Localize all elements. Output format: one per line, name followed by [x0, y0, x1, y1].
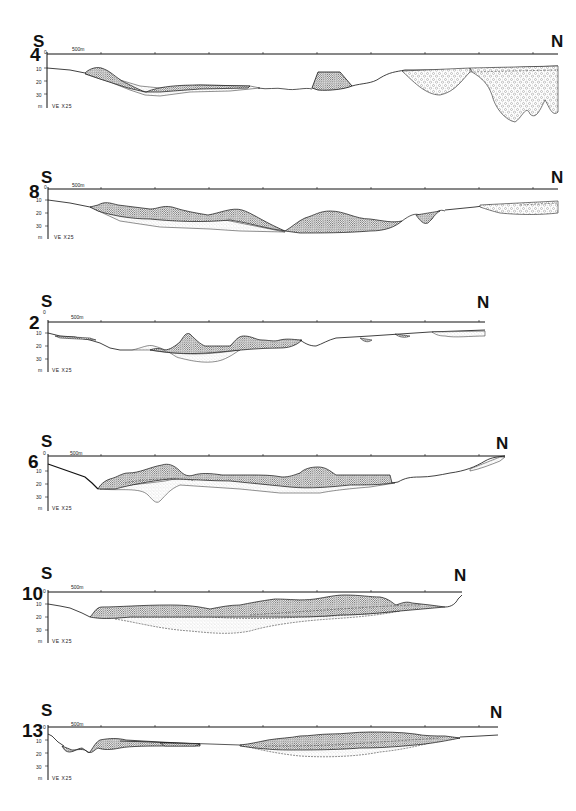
cross-section-4 [0, 0, 576, 135]
cross-section-10 [0, 545, 576, 680]
cross-section-13 [0, 680, 576, 811]
cross-section-2 [0, 270, 576, 405]
profile-13: S N 13 0 500m 10 20 30 m VE X25 [0, 680, 576, 811]
profile-10: S N 10 0 500m 10 20 30 m VE X25 [0, 545, 576, 680]
profile-8: S N 8 0 500m 10 20 30 m VE X25 [0, 135, 576, 270]
cross-section-8 [0, 135, 576, 270]
profile-6: S N 6 0 500m 10 20 30 m VE X25 [0, 405, 576, 545]
profile-2: S N 2 0 500m 10 20 30 m VE X25 [0, 270, 576, 405]
profile-4: S N 4 0 500m 10 20 30 m VE X25 [0, 0, 576, 135]
cross-section-6 [0, 405, 576, 545]
